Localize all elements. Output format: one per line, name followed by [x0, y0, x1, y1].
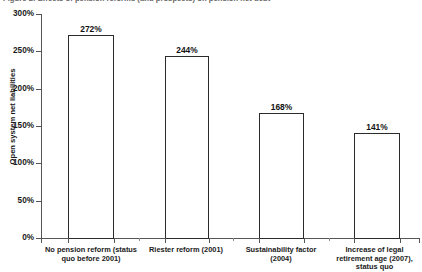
x-axis-category-label: Sustainability factor (2004)	[234, 246, 328, 263]
y-axis-tick-label: 100%	[0, 158, 34, 167]
x-axis-tick	[419, 238, 420, 243]
y-axis-tick	[36, 201, 41, 202]
x-axis-tick	[259, 238, 260, 243]
y-axis-tick-label: 300%	[0, 9, 34, 18]
y-axis-tick	[36, 89, 41, 90]
x-axis-category-label: Increase of legal retirement age (2007),…	[330, 246, 419, 272]
y-axis-tick-label: 250%	[0, 46, 34, 55]
x-axis-tick	[41, 238, 42, 243]
y-axis-line	[41, 14, 42, 239]
y-axis-tick	[36, 126, 41, 127]
x-axis-category-label: Riester reform (2001)	[140, 246, 232, 255]
figure-caption-clipped: Figure 2: Effects of pension reforms (an…	[0, 0, 422, 6]
bar	[354, 133, 400, 239]
bar	[259, 113, 304, 239]
y-axis-tick	[36, 51, 41, 52]
bar-value-label: 244%	[151, 45, 223, 55]
y-axis-tick	[36, 14, 41, 15]
x-axis-tick	[68, 238, 69, 243]
x-axis-tick-minor	[233, 238, 234, 241]
y-axis-tick	[36, 163, 41, 164]
y-axis-tick-label: 0%	[0, 233, 34, 242]
x-axis-tick-minor	[329, 238, 330, 241]
bar-value-label: 272%	[54, 24, 128, 34]
x-axis-tick	[165, 238, 166, 243]
x-axis-tick	[209, 238, 210, 243]
x-axis-tick	[114, 238, 115, 243]
x-axis-tick	[304, 238, 305, 243]
y-axis-tick-label: 150%	[0, 121, 34, 130]
x-axis-tick	[354, 238, 355, 243]
x-axis-category-label: No pension reform (status quo before 200…	[43, 246, 139, 263]
y-axis-tick-label: 200%	[0, 84, 34, 93]
x-axis-tick-minor	[139, 238, 140, 241]
bar-value-label: 168%	[245, 102, 318, 112]
y-axis-tick-label: 50%	[0, 196, 34, 205]
x-axis-tick	[400, 238, 401, 243]
figure-caption-text: Figure 2: Effects of pension reforms (an…	[3, 0, 270, 3]
bar	[68, 35, 114, 239]
bar	[165, 56, 209, 239]
bar-value-label: 141%	[340, 122, 414, 132]
